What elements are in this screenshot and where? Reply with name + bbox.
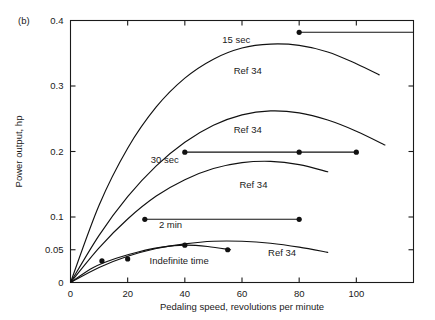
data-point-marker [142,217,147,222]
y-tick-label: 0 [58,277,63,288]
x-tick-label: 0 [68,288,73,299]
annotation-label: 30 sec [151,154,179,165]
x-tick-label: 100 [348,288,364,299]
data-point-marker [99,258,104,263]
data-point-marker [297,30,302,35]
y-tick-label: 0.3 [50,80,63,91]
y-tick-label: 0.05 [45,244,64,255]
power-output-chart: 020406080100Pedaling speed, revolutions … [0,0,435,320]
x-axis-label: Pedaling speed, revolutions per minute [160,301,324,312]
annotation-label: Ref 34 [234,65,262,76]
data-point-marker [182,243,187,248]
data-point-marker [182,150,187,155]
figure-container: 020406080100Pedaling speed, revolutions … [0,0,435,320]
x-tick-label: 80 [294,288,305,299]
annotation-label: Ref 34 [268,247,296,258]
x-tick-label: 20 [122,288,133,299]
y-tick-label: 0.4 [50,15,63,26]
data-point-marker [354,150,359,155]
panel-label: (b) [18,15,30,26]
data-point-marker [297,150,302,155]
y-tick-label: 0.1 [50,211,63,222]
series-curve [71,44,380,283]
data-point-marker [225,247,230,252]
x-tick-label: 60 [237,288,248,299]
data-point-marker [297,217,302,222]
y-axis-label: Power output, hp [13,116,24,188]
annotation-label: Indefinite time [150,255,209,266]
annotation-label: 15 sec [222,34,250,45]
x-tick-label: 40 [180,288,191,299]
annotation-label: 2 min [159,219,182,230]
y-tick-label: 0.2 [50,146,63,157]
annotation-label: Ref 34 [239,179,267,190]
axes-frame [71,21,414,283]
annotation-label: Ref 34 [234,124,262,135]
series-curve [71,111,385,283]
data-point-marker [125,256,130,261]
